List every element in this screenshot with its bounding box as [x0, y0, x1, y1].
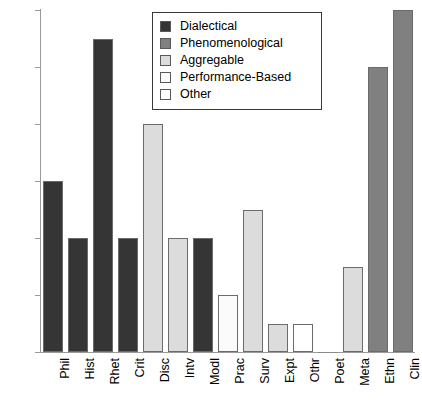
x-tick-label-ethn: Ethn [384, 358, 397, 384]
x-tick-label-poet: Poet [334, 358, 347, 384]
legend-swatch-icon [160, 21, 171, 32]
legend-item-phenomenological: Phenomenological [160, 35, 314, 52]
legend-item-aggregable: Aggregable [160, 52, 314, 69]
bar-clin [393, 10, 413, 352]
legend-item-label: Other [180, 88, 211, 101]
bar-meta [343, 267, 363, 353]
bar-hist [68, 238, 88, 352]
legend-item-label: Phenomenological [180, 37, 283, 50]
x-tick-label-prac: Prac [234, 358, 247, 384]
legend-item-label: Dialectical [180, 20, 237, 33]
legend-item-other: Other [160, 86, 314, 103]
x-tick-label-expt: Expt [284, 358, 297, 383]
x-tick-label-disc: Disc [159, 358, 172, 382]
bar-intv [168, 238, 188, 352]
x-tick-label-hist: Hist [84, 358, 97, 380]
bar-prac [218, 295, 238, 352]
bar-ethn [368, 67, 388, 352]
legend-swatch-icon [160, 72, 171, 83]
bar-phil [43, 181, 63, 352]
bar-poet [318, 352, 338, 353]
legend-swatch-icon [160, 38, 171, 49]
x-tick-label-modl: Modl [209, 358, 222, 385]
chart-legend: DialecticalPhenomenologicalAggregablePer… [152, 12, 322, 110]
legend-item-dialectical: Dialectical [160, 18, 314, 35]
bar-modl [193, 238, 213, 352]
legend-swatch-icon [160, 55, 171, 66]
x-tick-label-phil: Phil [59, 358, 72, 379]
x-tick-label-othr: Othr [309, 358, 322, 382]
legend-item-label: Aggregable [180, 54, 244, 67]
legend-swatch-icon [160, 89, 171, 100]
x-tick-label-meta: Meta [359, 358, 372, 386]
bar-surv [243, 210, 263, 353]
x-tick-label-intv: Intv [184, 358, 197, 378]
x-tick-label-clin: Clin [409, 358, 422, 380]
legend-item-label: Performance-Based [180, 71, 291, 84]
bar-disc [143, 124, 163, 352]
bar-othr [293, 324, 313, 353]
bar-crit [118, 238, 138, 352]
bar-expt [268, 324, 288, 353]
x-tick-label-surv: Surv [259, 358, 272, 384]
x-tick-label-rhet: Rhet [109, 358, 122, 384]
legend-item-performance-based: Performance-Based [160, 69, 314, 86]
x-tick-label-crit: Crit [134, 358, 147, 377]
bar-rhet [93, 39, 113, 353]
